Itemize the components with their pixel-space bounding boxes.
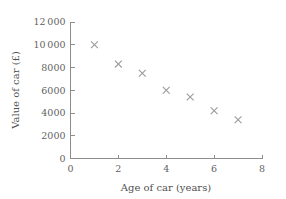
- y-tick-group: 0200040006000800010 00012 000: [33, 16, 74, 164]
- x-tick-label: 4: [163, 163, 169, 174]
- y-tick-label: 4000: [41, 107, 65, 118]
- data-point-marker: [187, 94, 194, 101]
- x-tick-label: 0: [67, 163, 73, 174]
- x-tick-label: 6: [211, 163, 217, 174]
- y-tick-label: 0: [59, 153, 65, 164]
- x-tick-label: 8: [259, 163, 265, 174]
- plot-area: 0200040006000800010 00012 000 02468 Age …: [0, 0, 286, 199]
- y-tick-label: 8000: [41, 62, 65, 73]
- y-axis-title: Value of car (£): [10, 51, 21, 130]
- data-point-marker: [139, 70, 146, 77]
- data-point-marker: [91, 41, 98, 48]
- y-tick-label: 12 000: [33, 16, 65, 27]
- data-point-marker: [211, 107, 218, 114]
- x-axis-title: Age of car (years): [120, 182, 211, 193]
- data-point-marker: [115, 61, 122, 68]
- data-point-group: [91, 41, 241, 123]
- y-tick-label: 6000: [41, 85, 65, 96]
- data-point-marker: [235, 116, 242, 123]
- y-tick-label: 2000: [41, 130, 65, 141]
- y-tick-label: 10 000: [33, 39, 65, 50]
- x-tick-label: 2: [115, 163, 121, 174]
- x-tick-group: 02468: [67, 155, 265, 174]
- scatter-chart: 0200040006000800010 00012 000 02468 Age …: [0, 0, 286, 199]
- data-point-marker: [163, 87, 170, 94]
